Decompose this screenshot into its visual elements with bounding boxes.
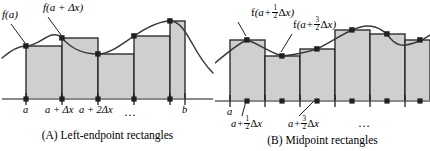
axis-label-a: a <box>23 105 28 116</box>
label-f-of-a-plus-half-dx: f(a + 12Δx) <box>251 5 294 21</box>
label-f-of-a: f(a) <box>2 9 18 20</box>
axis-label-ellipsis-a: … <box>124 106 137 118</box>
leader-line-f-of-a-plus-three-half-dx <box>281 34 292 52</box>
axis-label-b: b <box>182 105 187 116</box>
axis-label-a-plus-three-half-dx: a + 32Δx <box>288 116 319 132</box>
axis-label-a-plus-dx: a + Δx <box>45 105 73 116</box>
label-f-of-a-plus-dx: f(a + Δx) <box>43 2 83 13</box>
axis-label-ellipsis-b: … <box>358 117 371 129</box>
leader-line-f-of-a-plus-half-dx <box>238 22 246 36</box>
riemann-sum-figure: f(a) f(a + Δx) a a + Δx a + 2Δx … b (A) … <box>0 0 430 151</box>
panel-left-endpoint: f(a) f(a + Δx) a a + Δx a + 2Δx … b (A) … <box>0 0 215 151</box>
axis-label-a-plus-2dx: a + 2Δx <box>79 105 113 116</box>
label-f-of-a-plus-three-half-dx: f(a + 32Δx) <box>293 17 336 33</box>
midpoint-rectangles <box>230 30 430 101</box>
leader-line-axis-three-half-dx <box>299 101 314 116</box>
caption-panel-a: (A) Left-endpoint rectangles <box>0 129 215 141</box>
caption-panel-b: (B) Midpoint rectangles <box>215 134 430 146</box>
leader-line-f-of-a-plus-dx <box>48 17 61 35</box>
panel-midpoint: f(a + 12Δx) f(a + 32Δx) a a + 12Δx a + 3… <box>215 0 430 151</box>
axis-label-a-plus-half-dx: a + 12Δx <box>231 116 262 132</box>
leader-line-f-of-a <box>11 24 25 43</box>
leader-line-axis-half-dx <box>242 101 246 116</box>
left-endpoint-rectangles <box>26 21 185 99</box>
